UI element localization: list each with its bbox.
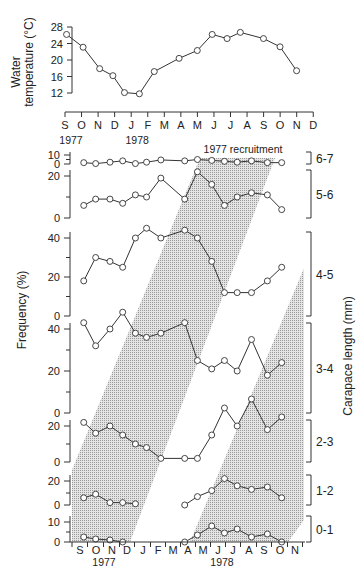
data-point (132, 330, 138, 336)
data-point (107, 196, 113, 202)
month-label: N (108, 544, 116, 556)
size-class-label: 4-5 (316, 268, 334, 282)
data-point (234, 194, 240, 200)
month-label: O (77, 119, 86, 131)
data-point (264, 278, 270, 284)
data-point (151, 69, 157, 75)
data-point (224, 36, 230, 42)
month-label: M (198, 544, 207, 556)
data-point (182, 227, 188, 233)
data-point (144, 445, 150, 451)
y-tick-label: 20 (48, 170, 60, 182)
data-point (248, 486, 254, 492)
data-point (107, 258, 113, 264)
month-label: J (230, 544, 236, 556)
month-label: D (309, 119, 317, 131)
month-label: A (177, 119, 185, 131)
data-point (132, 501, 138, 507)
data-point (248, 396, 254, 402)
y-tick-label: 0 (54, 456, 60, 468)
data-point (194, 48, 200, 54)
data-point (279, 160, 285, 166)
data-point (81, 419, 87, 425)
data-point (81, 160, 87, 166)
year-label: 1978 (210, 556, 234, 568)
class-bracket (306, 323, 311, 413)
data-point (194, 157, 200, 163)
month-label: D (111, 119, 119, 131)
data-point (279, 207, 285, 213)
month-label: N (293, 119, 301, 131)
size-class-label: 3-4 (316, 362, 334, 376)
data-point (182, 196, 188, 202)
data-point (194, 532, 200, 538)
data-point (132, 161, 138, 167)
data-point (248, 158, 254, 164)
year-label: 1978 (126, 134, 150, 146)
data-point (132, 235, 138, 241)
data-point (209, 157, 215, 163)
water-temperature-chart: Water temperature (°C) 1216202428 SONDJF… (9, 17, 317, 146)
data-point (158, 455, 164, 461)
data-point (93, 196, 99, 202)
data-point (209, 523, 215, 529)
data-point (81, 320, 87, 326)
class-bracket (306, 152, 311, 164)
data-point (209, 181, 215, 187)
data-point (209, 31, 215, 37)
data-point (248, 337, 254, 343)
data-point (279, 414, 285, 420)
month-label: A (245, 544, 253, 556)
y-tick-label: 20 (48, 365, 60, 377)
data-point (264, 372, 270, 378)
month-label: M (168, 544, 177, 556)
data-point (110, 73, 116, 79)
data-point (182, 158, 188, 164)
class-bracket (306, 475, 311, 505)
month-label: J (211, 119, 217, 131)
data-point (277, 44, 283, 50)
month-label: J (140, 544, 146, 556)
bottom-x-axis: SONDJFMAMJJASON19771978 (70, 542, 305, 568)
data-point (182, 455, 188, 461)
data-point (136, 91, 142, 97)
month-label: O (92, 544, 101, 556)
month-label: J (128, 119, 134, 131)
y-tick-label: 40 (48, 232, 60, 244)
y-tick-label: 20 (51, 54, 63, 66)
data-point (144, 225, 150, 231)
data-point (221, 530, 227, 536)
y-tick-label: 20 (48, 420, 60, 432)
data-point (93, 491, 99, 497)
data-point (93, 430, 99, 436)
data-point (120, 309, 126, 315)
data-point (264, 427, 270, 433)
data-point (234, 526, 240, 532)
carapace-length-label: Carapace length (mm) (341, 296, 355, 415)
data-point (209, 432, 215, 438)
size-class-label: 2-3 (316, 435, 334, 449)
data-point (221, 202, 227, 208)
y-tick-label: 0 (54, 212, 60, 224)
y-tick-label: 24 (51, 38, 63, 50)
data-point (248, 534, 254, 540)
data-point (182, 320, 188, 326)
month-label: S (61, 119, 68, 131)
data-point (294, 68, 300, 74)
figure: Water temperature (°C) 1216202428 SONDJF… (0, 0, 362, 568)
data-point (93, 343, 99, 349)
data-point (221, 158, 227, 164)
data-point (81, 278, 87, 284)
data-point (279, 360, 285, 366)
data-point (97, 66, 103, 72)
month-label: J (228, 119, 234, 131)
data-point (237, 29, 243, 35)
recruitment-annotation: 1977 recruitment (204, 143, 283, 155)
size-class-label: 5-6 (316, 188, 334, 202)
data-point (80, 44, 86, 50)
data-point (209, 366, 215, 372)
data-point (120, 264, 126, 270)
data-point (144, 194, 150, 200)
y-tick-label: 10 (48, 516, 60, 528)
data-point (194, 494, 200, 500)
